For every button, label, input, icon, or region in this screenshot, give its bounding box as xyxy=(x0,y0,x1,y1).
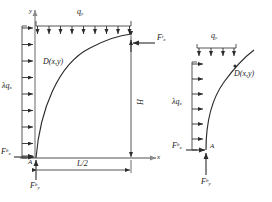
force-base-horizontal-label-detail: Fbx xyxy=(172,142,182,151)
structure-curve-detail xyxy=(206,50,254,150)
force-base-vertical-label: Fby xyxy=(30,182,40,191)
top-load-label-detail: qy xyxy=(211,32,217,41)
curve-label-detail: D(x,y) xyxy=(234,70,254,78)
side-load-label-detail: λqx xyxy=(172,98,182,107)
x-axis-label: x xyxy=(157,154,160,161)
dimension-half-span-label: L/2 xyxy=(77,160,88,168)
curve-label: D(x,y) xyxy=(43,58,63,66)
side-distributed-load xyxy=(22,26,33,158)
force-top-horizontal-label: Ftx xyxy=(157,34,165,43)
top-distributed-load-detail xyxy=(197,44,236,56)
point-a-label-detail: A xyxy=(210,143,214,150)
side-load-label: λqx xyxy=(2,82,12,91)
top-distributed-load xyxy=(36,21,131,34)
y-axis-label: y xyxy=(29,8,32,15)
top-load-label: qy xyxy=(77,8,83,17)
force-base-horizontal-label: Fbx xyxy=(1,148,11,157)
force-base-vertical-label-detail: Fby xyxy=(201,178,211,187)
dimension-height-label: H xyxy=(137,99,145,105)
point-a-label: A xyxy=(28,159,32,166)
left-panel xyxy=(14,10,156,180)
point-marker-d xyxy=(234,65,237,68)
structure-curve xyxy=(36,34,131,158)
right-panel xyxy=(186,44,254,175)
side-distributed-load-detail xyxy=(192,62,203,150)
